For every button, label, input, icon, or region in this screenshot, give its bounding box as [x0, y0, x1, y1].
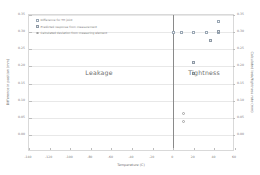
gridline — [29, 15, 233, 16]
gridline — [29, 84, 233, 85]
legend-item[interactable]: Calculated deviation from measuring elem… — [36, 31, 132, 36]
y-tick-right — [233, 66, 236, 67]
data-point — [180, 31, 183, 34]
data-point — [182, 120, 185, 123]
x-tick — [50, 148, 51, 151]
x-tick-label: 60 — [232, 155, 236, 159]
data-point — [209, 39, 212, 42]
y-tick-right — [233, 15, 236, 16]
x-tick — [235, 148, 236, 151]
y-tick-label-right: 0.00 — [237, 132, 251, 136]
y-tick-left — [29, 101, 32, 102]
y-tick-left — [29, 135, 32, 136]
y-tick-right — [233, 32, 236, 33]
x-tick-label: 20 — [191, 155, 195, 159]
x-tick — [111, 148, 112, 151]
x-tick-label: -100 — [66, 155, 73, 159]
x-tick — [91, 148, 92, 151]
legend-item[interactable]: Difference for TH joint — [36, 18, 132, 23]
y-tick-label-right: 0.15 — [237, 81, 251, 85]
x-tick-label: -80 — [87, 155, 92, 159]
x-tick — [153, 148, 154, 151]
y-tick-left — [29, 32, 32, 33]
x-tick-label: -120 — [45, 155, 52, 159]
y-tick-label-left: 0.15 — [11, 81, 25, 85]
y-axis-right-title: Calculated leak/tightness rate (mm) — [250, 51, 254, 112]
x-tick — [194, 148, 195, 151]
region-label-leakage: Leakage — [85, 68, 112, 75]
data-point — [192, 61, 195, 64]
y-tick-left — [29, 118, 32, 119]
data-point — [172, 31, 175, 34]
data-point — [217, 20, 220, 23]
y-tick-left — [29, 84, 32, 85]
data-point — [182, 112, 185, 115]
y-tick-label-right: 0.35 — [237, 12, 251, 16]
x-tick — [214, 148, 215, 151]
region-label-tightness: Tightness — [188, 68, 220, 75]
y-tick-label-left: 0.30 — [11, 29, 25, 33]
chart-legend: Difference for TH jointPredicted respons… — [36, 18, 132, 37]
y-axis-left-title: Difference in position (mm) — [6, 59, 10, 106]
data-point — [217, 30, 220, 33]
y-tick-label-right: 0.20 — [237, 63, 251, 67]
y-tick-left — [29, 15, 32, 16]
y-tick-right — [233, 49, 236, 50]
y-tick-label-right: 0.25 — [237, 46, 251, 50]
legend-label: Predicted response from measurement — [41, 25, 97, 29]
x-tick — [70, 148, 71, 151]
legend-item[interactable]: Predicted response from measurement — [36, 24, 132, 29]
y-tick-left — [29, 49, 32, 50]
legend-marker-icon — [36, 32, 39, 35]
y-tick-label-right: 0.05 — [237, 115, 251, 119]
x-tick — [132, 148, 133, 151]
y-tick-label-left: 0.35 — [11, 12, 25, 16]
x-tick-label: -40 — [128, 155, 133, 159]
gridline — [29, 135, 233, 136]
x-tick-label: -20 — [149, 155, 154, 159]
x-tick-label: -60 — [108, 155, 113, 159]
legend-marker-icon — [36, 25, 39, 28]
y-tick-right — [233, 118, 236, 119]
x-tick — [29, 148, 30, 151]
data-point — [205, 31, 208, 34]
chart-figure: LeakageTightness -140-120-100-80-60-40-2… — [0, 0, 260, 175]
y-tick-label-left: 0.20 — [11, 63, 25, 67]
legend-label: Difference for TH joint — [41, 18, 73, 22]
y-tick-label-left: 0.00 — [11, 132, 25, 136]
x-tick-label: -140 — [24, 155, 31, 159]
y-tick-label-left: 0.25 — [11, 46, 25, 50]
data-point — [192, 31, 195, 34]
gridline — [29, 49, 233, 50]
y-tick-label-left: 0.05 — [11, 115, 25, 119]
legend-marker-icon — [36, 19, 39, 22]
y-tick-label-right: 0.10 — [237, 98, 251, 102]
y-tick-right — [233, 135, 236, 136]
x-axis-title: Temperature (C) — [117, 163, 145, 167]
x-tick-label: 40 — [211, 155, 215, 159]
gridline — [29, 101, 233, 102]
y-tick-right — [233, 84, 236, 85]
y-tick-right — [233, 101, 236, 102]
y-tick-left — [29, 66, 32, 67]
gridline — [29, 118, 233, 119]
y-tick-label-right: 0.30 — [237, 29, 251, 33]
legend-label: Calculated deviation from measuring elem… — [41, 31, 107, 35]
y-tick-label-left: 0.10 — [11, 98, 25, 102]
reference-line-zero — [173, 15, 174, 150]
x-tick-label: 0 — [171, 155, 173, 159]
x-tick — [173, 148, 174, 151]
